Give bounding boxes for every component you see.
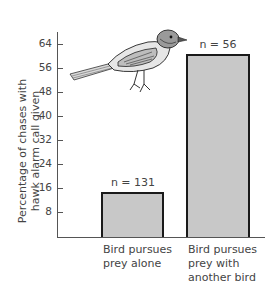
x-category-label-prey-alone: Bird pursues prey alone <box>103 243 172 271</box>
y-tick-label: 64 <box>30 37 52 49</box>
y-tick <box>57 44 63 45</box>
y-tick <box>57 92 63 93</box>
y-tick-label: 40 <box>30 109 52 121</box>
y-tick <box>57 188 63 189</box>
category-line: another bird <box>188 271 257 285</box>
category-line: prey alone <box>103 257 172 271</box>
y-tick <box>57 116 63 117</box>
y-tick <box>57 140 63 141</box>
sample-size-label-prey-alone: n = 131 <box>96 176 170 189</box>
y-tick-label: 56 <box>30 61 52 73</box>
category-line: Bird pursues <box>103 243 172 257</box>
y-axis-line <box>57 32 58 238</box>
bar-prey-alone <box>101 192 164 237</box>
bird-illustration-icon <box>68 12 193 97</box>
y-tick-label: 48 <box>30 85 52 97</box>
y-tick-label: 8 <box>30 205 52 217</box>
bar-prey-with-another-bird <box>186 54 250 237</box>
category-line: Bird pursues <box>188 243 257 257</box>
x-axis-line <box>57 237 265 238</box>
y-tick <box>57 68 63 69</box>
y-tick-label: 32 <box>30 133 52 145</box>
y-axis-label-line-1: Percentage of chases with <box>16 56 29 246</box>
y-tick <box>57 164 63 165</box>
y-tick-label: 24 <box>30 157 52 169</box>
y-tick-label: 16 <box>30 181 52 193</box>
x-category-label-prey-with-another-bird: Bird pursues prey with another bird <box>188 243 257 285</box>
y-tick <box>57 212 63 213</box>
category-line: prey with <box>188 257 257 271</box>
